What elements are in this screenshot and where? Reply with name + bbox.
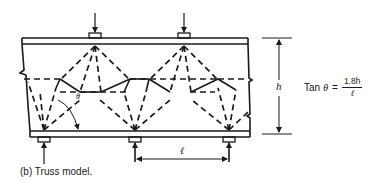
height-label: h xyxy=(275,80,283,92)
formula-fraction: 1.8h ℓ xyxy=(342,76,363,98)
beam-outline xyxy=(20,38,252,137)
compression-struts xyxy=(24,46,248,130)
formula-equals: = xyxy=(332,82,338,93)
support-reaction-arrows xyxy=(44,143,229,164)
theta-label: θ xyxy=(76,92,80,101)
figure-caption: (b) Truss model. xyxy=(20,166,92,177)
formula-theta: θ xyxy=(323,82,328,93)
formula-numerator: 1.8h xyxy=(342,76,363,88)
tan-theta-formula: Tan θ = 1.8h ℓ xyxy=(304,76,362,98)
formula-denominator: ℓ xyxy=(350,88,354,98)
formula-tan: Tan xyxy=(304,82,320,93)
applied-load-arrows xyxy=(95,13,184,32)
span-label: ℓ xyxy=(180,145,184,156)
